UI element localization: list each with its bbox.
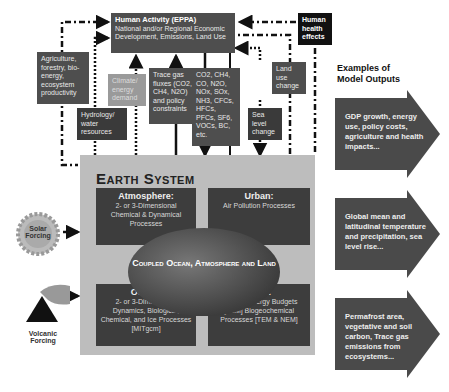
urban-text: Air Pollution Processes bbox=[212, 201, 306, 210]
human-activity-subtitle: National and/or Regional Economic Develo… bbox=[115, 25, 231, 42]
urban-heading: Urban: bbox=[212, 192, 306, 201]
output-item-2: Global mean and latitudinal temperature … bbox=[335, 190, 440, 278]
output-text-3: Permafrost area, vegetative and soil car… bbox=[345, 312, 430, 362]
emissions-box: CO2, CH4, CO, N2O, NOx, SOx, NH3, CFCs, … bbox=[192, 68, 240, 146]
output-item-3: Permafrost area, vegetative and soil car… bbox=[335, 290, 440, 378]
output-text-2: Global mean and latitudinal temperature … bbox=[345, 212, 430, 252]
hydrology-box: Hydrology/ water resources bbox=[77, 108, 127, 140]
land-use-change-box: Land use change bbox=[272, 62, 306, 94]
globe-icon bbox=[128, 228, 280, 316]
human-activity-title: Human Activity (EPPA) bbox=[115, 16, 231, 25]
atmosphere-heading: Atmosphere: bbox=[100, 192, 192, 201]
human-activity-box: Human Activity (EPPA) National and/or Re… bbox=[111, 13, 235, 53]
volcano-icon bbox=[22, 282, 70, 324]
agriculture-box: Agriculture, forestry, bio-energy, ecosy… bbox=[37, 52, 89, 104]
sea-level-change-box: Sea level change bbox=[248, 108, 282, 140]
atmosphere-text: 2- or 3-Dimensional Chemical & Dynamical… bbox=[100, 201, 192, 228]
volcanic-forcing-label: Volcanic Forcing bbox=[20, 330, 66, 344]
solar-forcing-label: Solar Forcing bbox=[18, 225, 58, 239]
coupled-core-label: Coupled Ocean, Atmosphere and Land bbox=[128, 258, 280, 269]
outputs-heading: Examples of Model Outputs bbox=[337, 63, 417, 85]
output-text-1: GDP growth, energy use, policy costs, ag… bbox=[345, 112, 430, 152]
earth-system-title: Earth System bbox=[96, 170, 195, 187]
human-health-box: Human health effects bbox=[298, 13, 332, 45]
output-item-1: GDP growth, energy use, policy costs, ag… bbox=[335, 90, 440, 178]
climate-energy-box: Climate/ energy demand bbox=[108, 74, 146, 106]
